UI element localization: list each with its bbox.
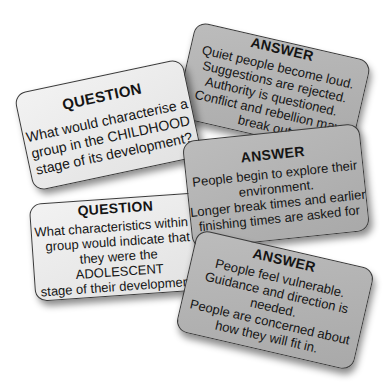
card-heading: QUESTION <box>77 197 153 218</box>
answer-card-vulnerable[interactable]: ANSWER People feel vulnerable. Guidance … <box>175 229 376 371</box>
question-card-childhood[interactable]: QUESTION What would characterise a group… <box>13 58 202 192</box>
answer-card-explore[interactable]: ANSWER People begin to explore their env… <box>182 123 370 249</box>
card-heading: ANSWER <box>240 143 305 166</box>
card-body: What characteristics within a group woul… <box>34 213 204 299</box>
card-body: People begin to explore their environmen… <box>186 157 368 235</box>
card-body: What would characterise a group in the C… <box>25 95 197 179</box>
card-body: People feel vulnerable. Guidance and dir… <box>185 252 361 362</box>
question-card-adolescent[interactable]: QUESTION What characteristics within a g… <box>29 192 207 302</box>
